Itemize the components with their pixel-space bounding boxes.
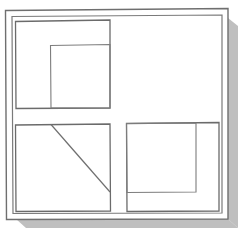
figure-svg — [0, 0, 245, 238]
page-shadow-right — [228, 18, 238, 228]
drawing-canvas: Technical line drawing of three squares … — [0, 0, 245, 238]
page-outer-border — [6, 9, 229, 220]
page-shadow-bottom — [16, 219, 238, 228]
